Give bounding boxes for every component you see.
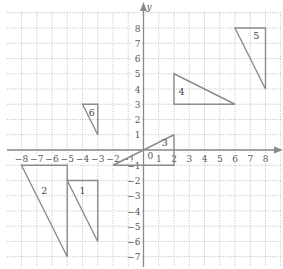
coordinate-grid-diagram: y −8−7−6−5−4−3−2−11234567887654321−1−2−3…: [0, 0, 283, 269]
x-tick-label: 4: [202, 154, 208, 164]
y-tick-label: 2: [135, 115, 141, 125]
y-tick-label: −4: [127, 207, 141, 217]
x-tick-label: −3: [91, 154, 105, 164]
x-tick-label: −7: [30, 154, 44, 164]
y-tick-label: −2: [127, 176, 140, 186]
y-tick-label: −7: [127, 252, 141, 262]
y-tick-label: 4: [135, 85, 141, 95]
y-tick-label: 5: [135, 69, 141, 79]
y-tick-label: 6: [135, 54, 141, 64]
y-tick-label: −6: [127, 237, 141, 247]
triangle-label-4: 4: [179, 86, 185, 97]
x-tick-label: 7: [247, 154, 253, 164]
x-tick-label: −2: [106, 154, 119, 164]
y-axis-label: y: [146, 2, 153, 12]
triangle-label-5: 5: [253, 30, 259, 41]
triangle-label-1: 1: [79, 185, 85, 196]
triangle-label-3: 3: [162, 137, 168, 148]
x-tick-label: −5: [61, 154, 75, 164]
x-tick-label: −8: [15, 154, 29, 164]
y-tick-label: 8: [135, 24, 141, 34]
x-tick-label: 6: [232, 154, 238, 164]
x-tick-label: 5: [217, 154, 223, 164]
x-tick-label: 1: [156, 154, 162, 164]
origin-label: 0: [148, 151, 154, 161]
y-tick-label: 1: [135, 130, 141, 140]
x-tick-label: −4: [76, 154, 90, 164]
y-tick-label: −5: [127, 222, 141, 232]
x-tick-label: −6: [45, 154, 59, 164]
x-tick-label: 3: [186, 154, 192, 164]
triangle-label-2: 2: [41, 185, 47, 196]
triangle-label-6: 6: [89, 107, 95, 118]
y-tick-label: 7: [135, 39, 141, 49]
x-axis-arrow-icon: [274, 147, 283, 154]
y-tick-label: −3: [127, 191, 141, 201]
x-tick-label: 8: [263, 154, 269, 164]
y-tick-label: 3: [135, 100, 141, 110]
